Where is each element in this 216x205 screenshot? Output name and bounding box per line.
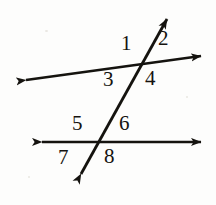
geometry-diagram-svg — [0, 0, 216, 205]
paper-speck — [28, 176, 30, 178]
angle-label-8: 8 — [104, 146, 115, 167]
angle-label-5: 5 — [72, 113, 83, 134]
paper-speck — [45, 30, 48, 32]
angle-label-7: 7 — [58, 147, 69, 168]
angle-label-2: 2 — [158, 28, 169, 49]
angle-label-3: 3 — [103, 69, 114, 90]
paper-speck — [186, 96, 188, 98]
angle-label-6: 6 — [119, 113, 130, 134]
angle-label-1: 1 — [121, 33, 132, 54]
geometry-figure: 1 2 3 4 5 6 7 8 — [0, 0, 216, 205]
upper-line — [26, 56, 201, 80]
angle-label-4: 4 — [145, 68, 156, 89]
